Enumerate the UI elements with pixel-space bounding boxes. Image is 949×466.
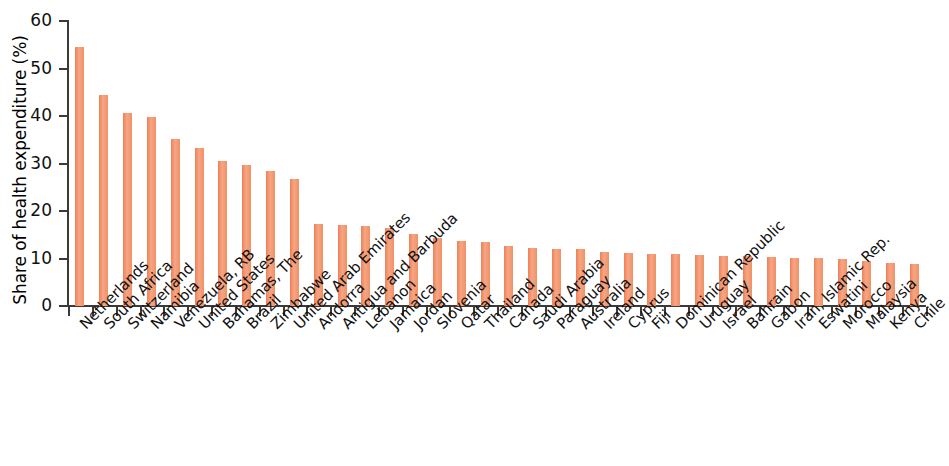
x-axis-tick [902,307,904,316]
bar [647,254,656,306]
bar [624,253,633,306]
bar [409,234,418,306]
x-axis-tick [831,307,833,316]
bar [314,224,323,306]
bar [195,148,204,306]
bar [242,165,251,306]
x-axis-tick [426,307,428,316]
bar [504,246,513,306]
bar [433,238,442,306]
y-axis-tick [59,20,68,22]
y-axis-tick-label: 30 [8,153,52,173]
bar [75,47,84,306]
x-axis-tick [211,307,213,316]
x-axis-tick [92,307,94,316]
y-axis-tick [59,163,68,165]
y-axis-tick-label: 20 [8,200,52,220]
bar [576,249,585,306]
y-axis-tick-label: 60 [8,10,52,30]
x-axis-tick [783,307,785,316]
bar [886,263,895,306]
x-axis-tick [616,307,618,316]
bar [99,95,108,306]
x-axis-tick [712,307,714,316]
bar [814,258,823,306]
y-axis-tick-label: 50 [8,58,52,78]
bar [838,259,847,306]
bar [171,139,180,306]
x-axis-tick [878,307,880,316]
bar [910,264,919,306]
x-axis-tick [354,307,356,316]
bar [338,225,347,306]
x-axis-tick [259,307,261,316]
x-axis-tick [521,307,523,316]
x-axis-tick [283,307,285,316]
bar [290,179,299,306]
y-axis-tick [59,115,68,117]
x-axis-tick [378,307,380,316]
bar [862,261,871,306]
x-axis-tick [926,307,928,316]
x-axis-tick [545,307,547,316]
bar [481,242,490,306]
bar [457,241,466,306]
bar [767,257,776,306]
bar-series [68,21,926,306]
bar [385,228,394,306]
x-axis-tick [855,307,857,316]
x-axis-tick [68,307,70,316]
x-axis-label: Fiji [648,306,674,332]
x-axis-tick [688,307,690,316]
bar [695,255,704,306]
y-axis-tick-label: 0 [8,295,52,315]
x-axis-tick [807,307,809,316]
bar [528,248,537,306]
x-axis-tick [664,307,666,316]
x-axis-tick [116,307,118,316]
bar [552,249,561,306]
bar [266,171,275,306]
x-axis-tick [473,307,475,316]
x-axis-tick [497,307,499,316]
x-axis-tick [140,307,142,316]
x-axis-tick [402,307,404,316]
x-axis-tick [592,307,594,316]
x-axis-tick [735,307,737,316]
bar [600,252,609,306]
bar [790,258,799,306]
y-axis-tick [59,68,68,70]
y-axis-tick-label: 40 [8,105,52,125]
x-axis-tick [449,307,451,316]
x-axis-tick [235,307,237,316]
x-axis-tick [569,307,571,316]
y-axis-tick [59,258,68,260]
y-axis-tick [59,210,68,212]
x-axis-tick [640,307,642,316]
y-axis-tick-label: 10 [8,248,52,268]
y-axis-tick [59,305,68,307]
x-axis-tick [187,307,189,316]
x-axis-tick [330,307,332,316]
bar [123,113,132,306]
bar [671,254,680,306]
bar [719,256,728,306]
x-axis-tick [163,307,165,316]
bar [361,226,370,306]
bar [147,117,156,306]
bar [218,161,227,306]
bar [743,256,752,306]
x-axis-tick [759,307,761,316]
x-axis-tick [306,307,308,316]
